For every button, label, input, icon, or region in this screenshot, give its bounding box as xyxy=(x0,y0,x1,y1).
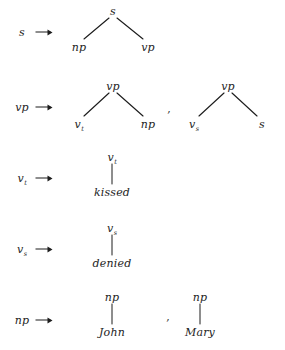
tree-edge xyxy=(199,93,224,116)
node-label: kissed xyxy=(94,186,130,199)
tree-child-np: np xyxy=(141,119,156,130)
rewrite-arrow-icon xyxy=(36,317,53,324)
tree-root-np: np xyxy=(105,292,120,303)
tree-edge xyxy=(84,18,109,39)
tree-root-v: vs xyxy=(107,223,117,234)
rewrite-arrow-icon xyxy=(36,175,53,182)
rewrite-arrow-icon xyxy=(36,104,53,111)
tree-child-np: np xyxy=(72,42,87,53)
tree-child-v: vs xyxy=(189,119,199,130)
terminal-kissed: kissed xyxy=(94,187,130,198)
rewrite-arrow-icon xyxy=(36,246,53,253)
tree-edge xyxy=(232,93,257,116)
lhs-label: v xyxy=(17,243,23,256)
tree-child-v: vt xyxy=(74,119,83,130)
node-subscript: s xyxy=(114,228,117,236)
tree-root-np: np xyxy=(193,292,208,303)
node-label: v xyxy=(189,118,195,131)
lhs-label: v xyxy=(17,172,23,185)
node-label: denied xyxy=(93,257,132,270)
node-label: Mary xyxy=(185,326,215,339)
node-label: np xyxy=(193,291,208,304)
rule-lhs-np: np xyxy=(15,315,30,326)
node-label: np xyxy=(141,118,156,131)
tree-child-s: s xyxy=(259,119,265,130)
node-label: np xyxy=(72,41,87,54)
terminal-John: John xyxy=(99,327,125,338)
rule-lhs-s: s xyxy=(19,27,25,38)
tree-root-v: vt xyxy=(107,152,116,163)
node-subscript: t xyxy=(81,124,84,132)
node-label: v xyxy=(74,118,80,131)
node-subscript: t xyxy=(114,157,117,165)
lhs-label: s xyxy=(19,26,25,39)
alternative-separator-comma: , xyxy=(167,103,171,114)
tree-root-vp: vp xyxy=(106,81,120,92)
node-subscript: s xyxy=(196,124,199,132)
rewrite-arrow-icon xyxy=(36,29,53,36)
node-label: np xyxy=(105,291,120,304)
node-label: v xyxy=(107,151,113,164)
tree-edge xyxy=(117,18,143,39)
rule-lhs-vp: vp xyxy=(15,102,29,113)
terminal-denied: denied xyxy=(93,258,132,269)
node-label: vp xyxy=(141,41,155,54)
tree-edge xyxy=(117,93,143,116)
tree-child-vp: vp xyxy=(141,42,155,53)
rule-lhs-vt: vt xyxy=(17,173,26,184)
rewrite-rules-figure: ssnpvpvp,vpvtnpvpvssvtvtkissedvsvsdenied… xyxy=(0,0,285,350)
lhs-subscript: t xyxy=(24,178,27,186)
tree-root-s: s xyxy=(110,6,116,17)
alternative-separator-comma: , xyxy=(166,311,170,322)
lhs-label: vp xyxy=(15,101,29,114)
lhs-subscript: s xyxy=(24,249,27,257)
node-label: vp xyxy=(106,80,120,93)
terminal-Mary: Mary xyxy=(185,327,215,338)
tree-edge xyxy=(84,93,109,116)
lhs-label: np xyxy=(15,314,30,327)
node-label: s xyxy=(110,5,116,18)
node-label: s xyxy=(259,118,265,131)
node-label: John xyxy=(99,326,125,339)
tree-root-vp: vp xyxy=(221,81,235,92)
node-label: v xyxy=(107,222,113,235)
node-label: vp xyxy=(221,80,235,93)
rule-lhs-vs: vs xyxy=(17,244,27,255)
